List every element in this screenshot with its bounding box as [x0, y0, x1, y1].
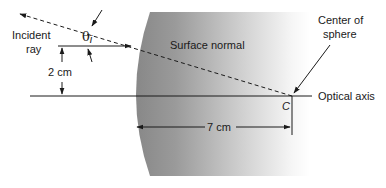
incident-ray-label-1: Incident — [12, 29, 51, 41]
theta-symbol: θi — [82, 29, 93, 45]
incident-ray-label-2: ray — [26, 43, 42, 55]
radius-dimension-label: 7 cm — [207, 121, 231, 133]
center-of-sphere-label-1: Center of — [318, 14, 364, 26]
theta-arrow-top — [92, 10, 102, 26]
optical-axis-label: Optical axis — [318, 90, 375, 102]
center-point-label: C — [282, 100, 290, 112]
theta-arrow-bottom — [88, 49, 92, 62]
center-of-sphere-label-2: sphere — [323, 28, 357, 40]
sphere-surface — [136, 12, 320, 176]
surface-normal-label: Surface normal — [170, 39, 245, 51]
refraction-diagram: Incident ray θi Surface normal Center of… — [0, 0, 386, 188]
height-dimension-label: 2 cm — [48, 66, 72, 78]
